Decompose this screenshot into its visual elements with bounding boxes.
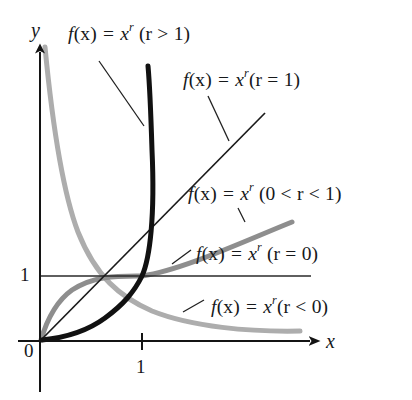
exponent-symbol: r bbox=[272, 293, 277, 307]
condition-r-equals-one: (r = 1) bbox=[249, 69, 300, 90]
base-symbol: x bbox=[235, 69, 244, 90]
equals-sign: = bbox=[102, 23, 115, 44]
label-r-less-than-zero: f(x)=xr(r < 0) bbox=[211, 295, 328, 316]
condition-r-equals-zero: (r = 0) bbox=[267, 243, 318, 264]
base-symbol: x bbox=[120, 23, 129, 44]
x-tick-label-one: 1 bbox=[136, 357, 146, 376]
curve-r-greater-than-one bbox=[42, 66, 153, 340]
exponent-symbol: r bbox=[249, 180, 254, 194]
fn-arg: (x) bbox=[74, 23, 97, 44]
leader-line-r-equals-one bbox=[208, 96, 229, 141]
exponent-symbol: r bbox=[257, 240, 262, 254]
origin-label: 0 bbox=[24, 341, 34, 360]
fn-arg: (x) bbox=[202, 243, 225, 264]
power-function-figure: y x 1 1 0 f(x)=xr(r > 1) f(x)=xr(r = 1) … bbox=[0, 0, 412, 400]
equals-sign: = bbox=[217, 69, 230, 90]
base-symbol: x bbox=[248, 243, 257, 264]
label-r-between-zero-and-one: f(x)=xr(0 < r < 1) bbox=[188, 182, 342, 203]
leader-line-r-between-zero-and-one bbox=[238, 208, 245, 222]
fn-arg: (x) bbox=[217, 296, 240, 317]
condition-r-between-zero-and-one: (0 < r < 1) bbox=[259, 183, 342, 204]
leader-line-r-greater-than-one bbox=[99, 61, 144, 126]
exponent-symbol: r bbox=[129, 20, 134, 34]
label-r-greater-than-one: f(x)=xr(r > 1) bbox=[68, 22, 190, 43]
fn-arg: (x) bbox=[189, 69, 212, 90]
condition-r-less-than-zero: (r < 0) bbox=[277, 296, 328, 317]
base-symbol: x bbox=[240, 183, 249, 204]
y-axis-label: y bbox=[31, 20, 40, 40]
x-axis-label: x bbox=[326, 331, 335, 351]
base-symbol: x bbox=[263, 296, 272, 317]
fn-arg: (x) bbox=[194, 183, 217, 204]
y-tick-label-one: 1 bbox=[20, 265, 30, 284]
condition-r-greater-than-one: (r > 1) bbox=[139, 23, 190, 44]
label-r-equals-one: f(x)=xr(r = 1) bbox=[183, 68, 300, 89]
equals-sign: = bbox=[245, 296, 258, 317]
exponent-symbol: r bbox=[244, 66, 249, 80]
leader-line-r-less-than-zero bbox=[183, 300, 204, 312]
equals-sign: = bbox=[230, 243, 243, 264]
label-r-equals-zero: f(x)=xr(r = 0) bbox=[196, 242, 318, 263]
equals-sign: = bbox=[222, 183, 235, 204]
